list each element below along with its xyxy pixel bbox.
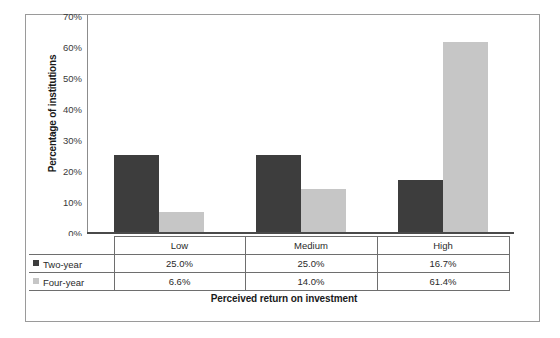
legend-swatch-icon	[33, 278, 39, 284]
bar-groups	[88, 15, 514, 232]
y-tick-label: 20%	[46, 166, 82, 177]
bar-group-low	[88, 15, 230, 232]
table-cell: 25.0%	[114, 255, 245, 273]
table-cell: 16.7%	[377, 255, 509, 273]
table-row: Four-year6.6%14.0%61.4%	[29, 273, 509, 291]
legend-swatch-icon	[33, 260, 39, 266]
table-column-header: High	[377, 237, 509, 255]
data-table-body: LowMediumHighTwo-year25.0%25.0%16.7%Four…	[29, 237, 509, 291]
table-cell: 61.4%	[377, 273, 509, 291]
y-tick-label: 70%	[46, 11, 82, 22]
bar-low-two-year	[114, 155, 159, 233]
bar-high-two-year	[398, 180, 443, 232]
bar-medium-two-year	[256, 155, 301, 233]
legend-item-four-year: Four-year	[29, 273, 114, 291]
table-row: Two-year25.0%25.0%16.7%	[29, 255, 509, 273]
table-column-header: Low	[114, 237, 245, 255]
legend-label: Four-year	[43, 276, 84, 287]
bar-medium-four-year	[301, 189, 346, 232]
legend-item-two-year: Two-year	[29, 255, 114, 273]
table-corner-cell	[29, 237, 114, 255]
y-axis-tick-labels: 0%10%20%30%40%50%60%70%	[46, 15, 82, 234]
table-cell: 14.0%	[245, 273, 377, 291]
table-cell: 6.6%	[114, 273, 245, 291]
y-tick-label: 50%	[46, 73, 82, 84]
table-cell: 25.0%	[245, 255, 377, 273]
legend-label: Two-year	[43, 258, 82, 269]
data-table: LowMediumHighTwo-year25.0%25.0%16.7%Four…	[29, 236, 510, 291]
y-tick-label: 40%	[46, 104, 82, 115]
x-axis-line	[87, 232, 514, 234]
table-column-header: Medium	[245, 237, 377, 255]
bar-low-four-year	[159, 212, 204, 232]
bar-group-high	[372, 15, 514, 232]
plot-area	[87, 15, 514, 234]
bar-group-medium	[230, 15, 372, 232]
y-tick-label: 30%	[46, 135, 82, 146]
table-header-row: LowMediumHigh	[29, 237, 509, 255]
y-tick-label: 10%	[46, 197, 82, 208]
chart-figure: Percentage of institutions 0%10%20%30%40…	[0, 0, 560, 338]
y-tick-label: 60%	[46, 42, 82, 53]
bar-high-four-year	[443, 42, 488, 232]
x-axis-title: Perceived return on investment	[58, 293, 510, 304]
